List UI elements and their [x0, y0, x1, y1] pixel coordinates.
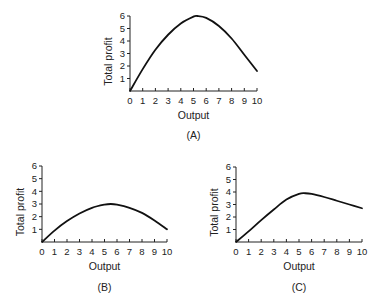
y-tick-label: 6	[32, 160, 37, 171]
x-tick-label: 0	[233, 246, 238, 257]
x-tick-label: 4	[89, 246, 94, 257]
x-tick-label: 10	[162, 246, 173, 257]
x-tick-label: 2	[64, 246, 69, 257]
panel-label: (B)	[98, 281, 112, 293]
x-tick-label: 0	[127, 95, 132, 106]
x-axis-label: Output	[89, 260, 121, 272]
x-tick-label: 8	[334, 246, 339, 257]
x-tick-label: 1	[246, 246, 251, 257]
x-tick-label: 6	[114, 246, 119, 257]
x-tick-label: 4	[284, 246, 289, 257]
x-tick-label: 10	[252, 95, 263, 106]
y-tick-label: 5	[120, 23, 125, 34]
x-tick-label: 7	[216, 95, 221, 106]
x-tick-label: 4	[178, 95, 183, 106]
y-tick-label: 6	[226, 161, 231, 172]
chart-panel-a: 123456012345678910OutputTotal profit(A)	[102, 10, 262, 141]
x-tick-label: 9	[242, 95, 247, 106]
x-tick-label: 9	[347, 246, 352, 257]
y-tick-label: 3	[120, 48, 125, 59]
y-tick-label: 1	[120, 73, 125, 84]
x-tick-label: 9	[152, 246, 157, 257]
x-tick-label: 3	[165, 95, 170, 106]
y-tick-label: 3	[32, 198, 37, 209]
x-tick-label: 2	[259, 246, 264, 257]
y-tick-label: 4	[226, 186, 231, 197]
x-tick-label: 7	[322, 246, 327, 257]
total-profit-curve	[130, 16, 257, 91]
y-tick-label: 1	[32, 224, 37, 235]
y-tick-label: 2	[120, 60, 125, 71]
x-tick-label: 8	[139, 246, 144, 257]
x-tick-label: 1	[52, 246, 57, 257]
x-tick-label: 5	[296, 246, 301, 257]
x-tick-label: 6	[204, 95, 209, 106]
y-tick-label: 4	[32, 186, 37, 197]
y-tick-label: 2	[32, 211, 37, 222]
x-tick-label: 6	[309, 246, 314, 257]
y-tick-label: 2	[226, 211, 231, 222]
x-tick-label: 5	[102, 246, 107, 257]
figure: 123456012345678910OutputTotal profit(A)1…	[0, 0, 377, 300]
x-tick-label: 1	[140, 95, 145, 106]
y-tick-label: 1	[226, 224, 231, 235]
total-profit-curve	[42, 204, 167, 242]
y-tick-label: 5	[32, 173, 37, 184]
x-axis-label: Output	[178, 109, 210, 121]
y-axis-label: Total profit	[208, 188, 220, 237]
x-tick-label: 10	[357, 246, 368, 257]
chart-panel-c: 123456012345678910OutputTotal profit(C)	[208, 161, 367, 293]
y-tick-label: 5	[226, 174, 231, 185]
x-axis-label: Output	[283, 260, 315, 272]
x-tick-label: 3	[271, 246, 276, 257]
y-tick-label: 6	[120, 10, 125, 21]
x-tick-label: 3	[77, 246, 82, 257]
chart-panel-b: 123456012345678910OutputTotal profit(B)	[14, 160, 172, 293]
x-tick-label: 8	[229, 95, 234, 106]
panel-label: (A)	[187, 129, 201, 141]
y-tick-label: 3	[226, 199, 231, 210]
x-tick-label: 7	[127, 246, 132, 257]
y-tick-label: 4	[120, 35, 125, 46]
y-axis-label: Total profit	[14, 188, 26, 237]
total-profit-curve	[236, 193, 362, 242]
x-tick-label: 0	[39, 246, 44, 257]
x-tick-label: 2	[153, 95, 158, 106]
panel-label: (C)	[292, 281, 307, 293]
y-axis-label: Total profit	[102, 37, 114, 86]
x-tick-label: 5	[191, 95, 196, 106]
